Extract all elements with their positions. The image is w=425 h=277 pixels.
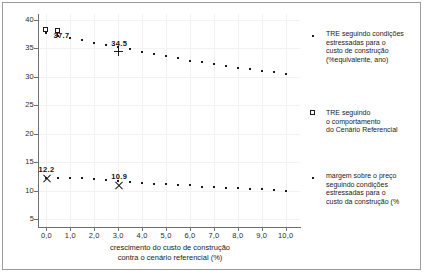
- data-point: [141, 51, 143, 53]
- x-tick-mark: [166, 228, 167, 231]
- x-tick-mark: [286, 228, 287, 231]
- gridline-vertical: [46, 14, 47, 227]
- y-tick-label: 5: [6, 215, 34, 223]
- legend-dot-icon: [312, 35, 314, 37]
- gridline-vertical: [214, 14, 215, 227]
- x-tick-mark: [262, 228, 263, 231]
- data-point: [93, 42, 95, 44]
- legend-dot-icon: [312, 177, 314, 179]
- x-tick-mark: [118, 228, 119, 231]
- y-tick-mark: [34, 105, 38, 106]
- y-tick-mark: [34, 77, 38, 78]
- y-tick-label: 20: [6, 130, 34, 138]
- legend-entry-line: seguindo condições: [326, 181, 422, 190]
- y-tick-text: 25: [8, 101, 34, 109]
- data-point: [225, 65, 227, 67]
- data-point: [165, 55, 167, 57]
- y-tick-text: 20: [8, 130, 34, 138]
- data-point: [237, 67, 239, 69]
- y-tick-text: 5: [8, 215, 34, 223]
- reference-square-marker: [43, 27, 48, 32]
- gridline-vertical: [190, 14, 191, 227]
- x-axis-title-line1: crescimento do custo de construção: [38, 243, 302, 253]
- gridline-horizontal: [38, 191, 300, 192]
- data-point: [93, 178, 95, 180]
- gridline-horizontal: [38, 20, 300, 21]
- y-tick-label: 30: [6, 73, 34, 81]
- x-tick-mark: [70, 228, 71, 231]
- gridline-vertical: [142, 14, 143, 227]
- x-tick-mark: [238, 228, 239, 231]
- data-point: [129, 181, 131, 183]
- legend-entry-line: o comportamento: [326, 118, 422, 127]
- x-tick-mark: [46, 228, 47, 231]
- y-tick-text: 30: [8, 73, 34, 81]
- data-point: [129, 48, 131, 50]
- data-point: [261, 70, 263, 72]
- data-point: [105, 44, 107, 46]
- y-tick-label: 40: [6, 16, 34, 24]
- data-label: 10.9: [111, 173, 127, 181]
- data-point: [285, 73, 287, 75]
- data-point: [249, 188, 251, 190]
- x-marker: [42, 174, 51, 183]
- y-tick-mark: [34, 48, 38, 49]
- y-tick-text: 40: [8, 16, 34, 24]
- data-label: 12.2: [38, 166, 54, 174]
- y-tick-label: 15: [6, 158, 34, 166]
- data-point: [69, 37, 71, 39]
- data-point: [273, 189, 275, 191]
- data-point: [105, 179, 107, 181]
- legend-square-icon: [310, 110, 315, 115]
- gridline-vertical: [238, 14, 239, 227]
- data-point: [45, 32, 47, 34]
- y-tick-label: 25: [6, 101, 34, 109]
- y-tick-label: 10: [6, 187, 34, 195]
- y-tick-mark: [34, 134, 38, 135]
- chart-figure: 403530252015105 0,01,02,03,04,05,06,07,0…: [0, 0, 425, 277]
- data-point: [177, 57, 179, 59]
- data-point: [249, 68, 251, 70]
- data-point: [237, 187, 239, 189]
- y-tick-mark: [34, 191, 38, 192]
- gridline-horizontal: [38, 105, 300, 106]
- legend-entry-line: custo de construção: [326, 47, 422, 56]
- gridline-horizontal: [38, 77, 300, 78]
- legend-entry-line: (%equivalente, ano): [326, 56, 422, 65]
- data-point: [153, 53, 155, 55]
- y-tick-mark: [34, 20, 38, 21]
- data-point: [57, 177, 59, 179]
- gridline-horizontal: [38, 162, 300, 163]
- data-point: [81, 177, 83, 179]
- data-label: 37.7: [53, 32, 69, 40]
- data-point: [201, 61, 203, 63]
- data-point: [165, 183, 167, 185]
- legend-entry-line: custo da construção (%: [326, 198, 422, 207]
- data-label: 34.5: [111, 40, 127, 48]
- legend-entry-line: margem sobre o preço: [326, 172, 422, 181]
- gridline-horizontal: [38, 134, 300, 135]
- gridline-vertical: [70, 14, 71, 227]
- legend-entry: TRE seguindo condiçõesestressadas para o…: [326, 30, 422, 64]
- gridline-vertical: [286, 14, 287, 227]
- x-axis-title-line2: contra o cenário referencial (%): [38, 253, 302, 263]
- x-tick-label: 10,0: [271, 231, 301, 240]
- y-tick-mark: [34, 219, 38, 220]
- legend-entry: margem sobre o preçoseguindo condiçõeses…: [326, 172, 422, 206]
- y-tick-text: 10: [8, 187, 34, 195]
- y-tick-mark: [34, 162, 38, 163]
- y-tick-label: 35: [6, 44, 34, 52]
- x-tick-text: 10,0: [271, 231, 301, 240]
- legend-entry-line: TRE seguindo condições: [326, 30, 422, 39]
- legend-entry-line: estressadas para o: [326, 39, 422, 48]
- x-tick-mark: [214, 228, 215, 231]
- data-point: [189, 60, 191, 62]
- y-axis-line: [38, 14, 39, 228]
- data-point: [285, 190, 287, 192]
- data-point: [261, 188, 263, 190]
- data-point: [69, 177, 71, 179]
- x-marker: [114, 181, 123, 190]
- data-point: [141, 182, 143, 184]
- x-axis-title: crescimento do custo de construção contr…: [38, 243, 302, 263]
- data-point: [189, 184, 191, 186]
